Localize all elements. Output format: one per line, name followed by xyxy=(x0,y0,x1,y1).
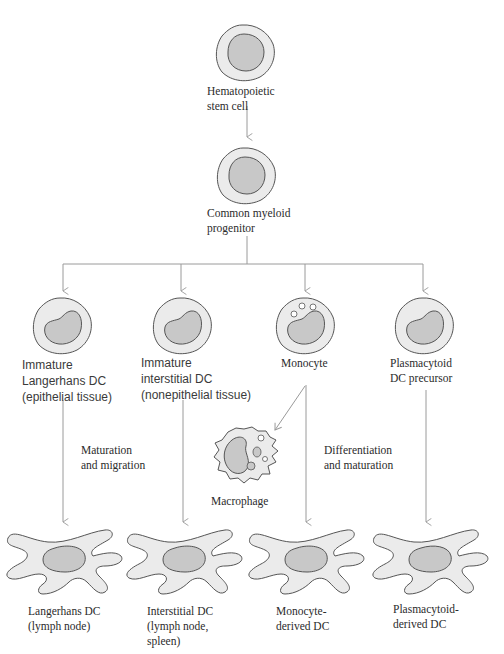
cmp-cell-icon xyxy=(217,148,275,204)
lc-cell-icon xyxy=(7,530,122,594)
label-pdc-precursor: Plasmacytoid DC precursor xyxy=(390,356,452,386)
label-cmp: Common myeloid progenitor xyxy=(207,206,290,236)
label-monocyte: Monocyte xyxy=(281,356,328,371)
label-differentiation-maturation: Differentiation and maturation xyxy=(324,443,393,473)
pdc-precursor-cell-icon xyxy=(395,298,453,354)
label-maturation-migration: Maturation and migration xyxy=(81,443,145,473)
label-lc: Langerhans DC (lymph node) xyxy=(28,604,101,634)
label-immature-lc: Immature Langerhans DC (epithelial tissu… xyxy=(22,357,112,405)
label-hsc: Hematopoietic stem cell xyxy=(207,84,275,114)
hsc-cell-icon xyxy=(216,25,274,81)
monocyte-cell-icon xyxy=(276,298,334,354)
label-idc: Interstitial DC (lymph node, spleen) xyxy=(147,604,213,649)
macrophage-cell-icon xyxy=(214,427,278,483)
mo-dc-cell-icon xyxy=(249,530,364,594)
label-macrophage: Macrophage xyxy=(211,494,268,509)
p-dc-cell-icon xyxy=(373,530,488,594)
immature-lc-cell-icon xyxy=(33,298,91,354)
label-p-dc: Plasmacytoid- derived DC xyxy=(393,602,459,632)
idc-cell-icon xyxy=(127,530,242,594)
arrow-to-macrophage xyxy=(275,386,305,430)
immature-idc-cell-icon xyxy=(153,298,211,354)
dendritic-cell-lineage-diagram: Hematopoietic stem cell Common myeloid p… xyxy=(0,0,504,654)
label-immature-idc: Immature interstitial DC (nonepithelial … xyxy=(141,355,251,403)
label-mo-dc: Monocyte- derived DC xyxy=(276,604,329,634)
